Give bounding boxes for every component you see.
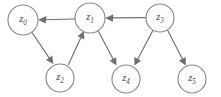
- edge-line-z0-z2: [32, 32, 50, 59]
- node-label-z5-subscript: 5: [192, 78, 196, 86]
- edge-z1-to-z0: [38, 16, 75, 24]
- arrow-head-z1-z0: [38, 16, 46, 24]
- node-z4[interactable]: z4: [112, 65, 140, 93]
- node-label-z4-subscript: 4: [126, 78, 130, 86]
- arrow-head-z3-z1: [105, 14, 113, 22]
- edge-line-z2-z1: [69, 36, 82, 65]
- edge-z2-to-z1: [69, 31, 85, 65]
- node-z5[interactable]: z5: [178, 65, 206, 93]
- node-label-z2-subscript: 2: [60, 77, 64, 85]
- arrow-head-z0-z2: [46, 56, 54, 64]
- edge-line-z1-z4: [99, 32, 114, 61]
- edge-line-z1-z0: [44, 19, 76, 20]
- edge-z3-to-z1: [105, 14, 146, 22]
- edge-z3-to-z5: [168, 30, 186, 65]
- node-z2[interactable]: z2: [46, 64, 74, 92]
- edge-z0-to-z2: [32, 32, 54, 64]
- node-z1[interactable]: z1: [75, 3, 105, 33]
- node-label-z0-subscript: 0: [23, 19, 27, 27]
- node-z3[interactable]: z3: [146, 4, 174, 32]
- edge-line-z3-z5: [168, 30, 184, 60]
- edge-z1-to-z4: [99, 32, 117, 66]
- edge-z3-to-z4: [134, 30, 153, 65]
- node-label-z3-subscript: 3: [159, 17, 164, 25]
- diagram-canvas: z0 z1 z2 z3: [0, 0, 221, 97]
- edge-line-z3-z4: [137, 30, 153, 60]
- directed-graph-svg: z0 z1 z2 z3: [0, 0, 221, 97]
- node-label-z1-subscript: 1: [90, 17, 94, 25]
- node-z0[interactable]: z0: [8, 5, 38, 35]
